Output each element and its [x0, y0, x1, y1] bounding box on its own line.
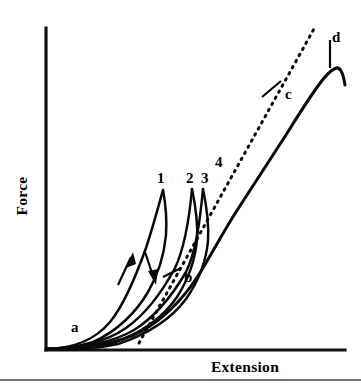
axes-group: [46, 28, 345, 350]
x-axis-title: Extension: [211, 358, 279, 375]
force-extension-figure: 1 2 3 4 a b c d Force Extension: [0, 0, 361, 384]
force-extension-plot: 1 2 3 4 a b c d Force Extension: [0, 0, 361, 384]
cycle-2-loop: [47, 189, 197, 349]
cycle-peak-labels: 1 2 3 4: [157, 154, 223, 186]
point-b-label: b: [184, 269, 192, 285]
point-c-label: c: [285, 86, 292, 102]
tangent-line-group: [139, 27, 315, 343]
unloading-arrow: [145, 252, 158, 285]
peak-2-label: 2: [186, 170, 194, 186]
point-d-label: d: [332, 29, 341, 45]
footer-divider: [0, 379, 361, 381]
peak-3-label: 3: [201, 170, 209, 186]
linear-region-tangent-line: [139, 27, 315, 343]
curve-tick-markers: [163, 40, 330, 277]
point-c-tick: [262, 81, 281, 97]
cycle-1-loading-curve: [47, 190, 163, 349]
peak-4-label: 4: [215, 154, 223, 170]
y-axis-title: Force: [13, 176, 30, 215]
peak-1-label: 1: [157, 170, 165, 186]
point-a-label: a: [71, 319, 79, 335]
